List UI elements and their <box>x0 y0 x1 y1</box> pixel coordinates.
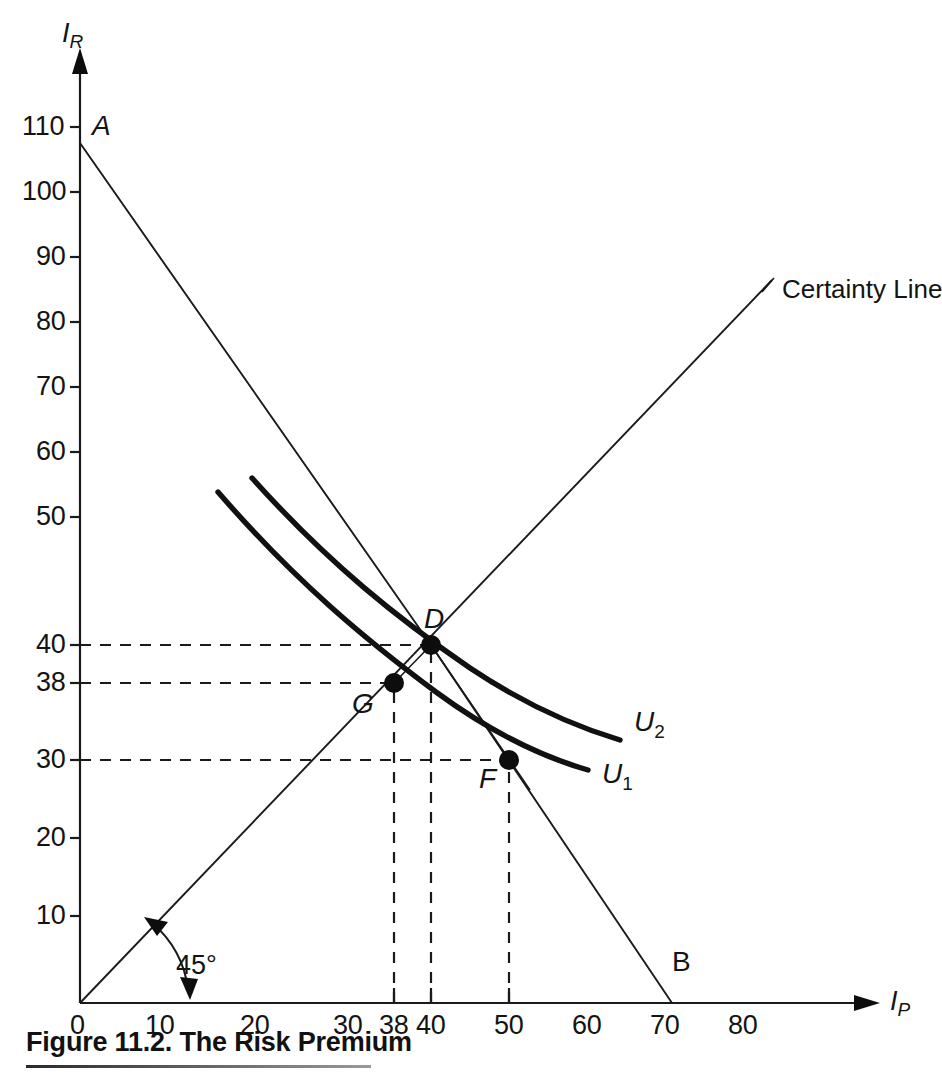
y-tick-marks <box>70 127 80 916</box>
certainty-label-leader <box>762 278 774 292</box>
x-axis-title-sub: P <box>898 999 911 1020</box>
figure-caption: Figure 11.2. The Risk Premium <box>26 1027 916 1058</box>
x-axis-arrowhead <box>854 995 880 1011</box>
caption-divider <box>26 1065 371 1068</box>
caption-block: Figure 11.2. The Risk Premium <box>26 1027 916 1068</box>
label-curve-u1-sub: 1 <box>622 773 633 794</box>
x-axis-title-main: I <box>890 986 898 1016</box>
marker-point-g <box>384 673 404 693</box>
y-tick-110: 110 <box>22 113 64 140</box>
y-tick-10: 10 <box>36 902 65 929</box>
y-tick-20: 20 <box>36 824 65 851</box>
label-angle-45: 45° <box>176 952 217 979</box>
label-point-g: G <box>352 690 374 718</box>
y-tick-40: 40 <box>36 631 65 658</box>
y-tick-90: 90 <box>36 243 65 270</box>
y-tick-60: 60 <box>36 438 65 465</box>
label-curve-u2: U2 <box>634 708 665 741</box>
label-curve-u1: U1 <box>602 760 633 793</box>
label-curve-u1-main: U <box>602 758 622 789</box>
y-tick-38: 38 <box>36 669 65 696</box>
label-point-a: A <box>92 112 111 140</box>
y-tick-100: 100 <box>22 178 66 205</box>
angle-arrow-lower <box>180 977 198 1000</box>
label-point-d: D <box>424 605 444 633</box>
y-tick-80: 80 <box>36 308 65 335</box>
x-tick-marks <box>394 988 509 1003</box>
y-tick-30: 30 <box>36 746 65 773</box>
marker-point-f <box>499 750 519 770</box>
label-curve-u2-main: U <box>634 706 654 737</box>
y-tick-70: 70 <box>36 373 65 400</box>
indifference-curve-u1 <box>218 492 588 770</box>
marker-point-d <box>421 635 441 655</box>
label-point-b: B <box>672 948 691 976</box>
budget-line-a-d-b <box>80 143 672 1003</box>
label-curve-u2-sub: 2 <box>654 721 665 742</box>
y-axis-title-sub: R <box>70 31 84 52</box>
y-tick-50: 50 <box>36 503 65 530</box>
y-axis-title: IR <box>62 20 83 51</box>
axes-group <box>72 48 880 1011</box>
label-certainty-line: Certainty Line <box>782 276 942 302</box>
y-axis-title-main: I <box>62 18 70 48</box>
label-point-f: F <box>479 765 496 793</box>
x-axis-title: IP <box>890 988 910 1019</box>
